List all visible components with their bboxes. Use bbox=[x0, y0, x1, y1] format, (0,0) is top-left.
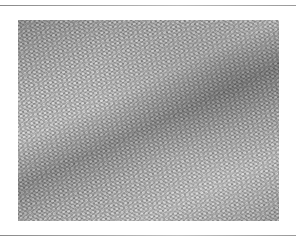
lattice-micrograph bbox=[18, 20, 279, 221]
top-rule bbox=[0, 5, 296, 6]
bottom-rule bbox=[0, 235, 296, 236]
contrast-shading bbox=[18, 20, 279, 221]
